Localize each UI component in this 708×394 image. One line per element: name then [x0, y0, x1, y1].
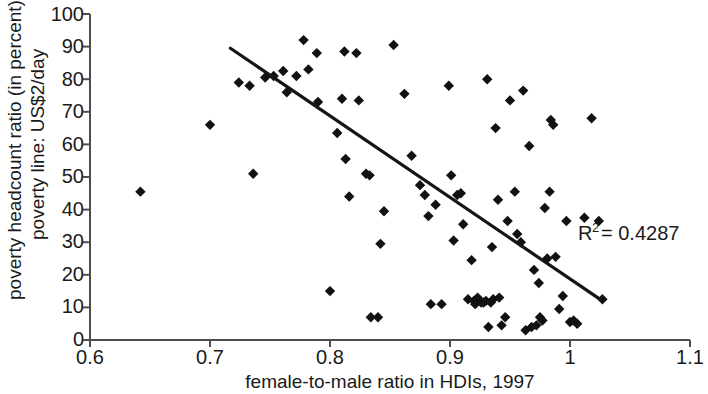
data-point-marker [351, 48, 361, 58]
data-point-marker [340, 154, 350, 164]
data-point-marker [373, 312, 383, 322]
data-point-marker [490, 123, 500, 133]
data-point-marker [554, 304, 564, 314]
data-point-marker [406, 151, 416, 161]
chart-figure: poverty headcount ratio (in percent) pov… [0, 0, 708, 394]
y-tick-label: 70 [62, 100, 84, 122]
y-tick-label: 60 [62, 133, 84, 155]
y-axis-title-line2: poverty line: US$2/day [27, 48, 48, 240]
data-point-marker [529, 265, 539, 275]
r-squared-prefix: R [578, 222, 592, 244]
data-point-marker [248, 169, 258, 179]
x-tick-label: 0.8 [316, 346, 344, 368]
data-point-marker [502, 216, 512, 226]
data-point-marker [388, 40, 398, 50]
data-point-marker [312, 48, 322, 58]
data-point-marker [426, 299, 436, 309]
data-point-marker [534, 278, 544, 288]
data-point-marker [444, 81, 454, 91]
data-point-marker [586, 113, 596, 123]
y-tick-labels: 100 90 80 70 60 50 40 30 20 10 0 [51, 3, 84, 350]
data-point-marker [483, 322, 493, 332]
regression-trend-line [230, 48, 602, 301]
data-point-marker [325, 286, 335, 296]
y-tick-label: 50 [62, 165, 84, 187]
data-point-marker [298, 35, 308, 45]
y-tick-label: 30 [62, 230, 84, 252]
y-tick-label: 20 [62, 263, 84, 285]
y-axis-title-group: poverty headcount ratio (in percent) pov… [4, 0, 48, 300]
data-point-marker [458, 219, 468, 229]
data-point-marker [482, 74, 492, 84]
data-point-marker [550, 252, 560, 262]
data-point-marker [303, 64, 313, 74]
y-axis-title-line1: poverty headcount ratio (in percent) [4, 0, 25, 300]
r-squared-annotation: R 2 = 0.4287 [578, 220, 679, 244]
r-squared-value: = 0.4287 [601, 222, 679, 244]
data-point-marker [558, 291, 568, 301]
data-point-marker [291, 71, 301, 81]
data-point-marker [278, 66, 288, 76]
data-point-marker [399, 89, 409, 99]
data-point-marker [205, 120, 215, 130]
x-tick-label: 0.6 [76, 346, 104, 368]
x-tick-label: 0.9 [436, 346, 464, 368]
data-point-marker [524, 141, 534, 151]
data-point-marker [446, 170, 456, 180]
x-tick-labels: 0.6 0.7 0.8 0.9 1 1.1 [76, 346, 704, 368]
data-point-marker [518, 85, 528, 95]
data-point-marker [339, 46, 349, 56]
data-point-marker [337, 94, 347, 104]
scatter-plot-svg: poverty headcount ratio (in percent) pov… [0, 0, 708, 394]
y-tick-label: 100 [51, 3, 84, 25]
data-point-marker [344, 191, 354, 201]
data-point-marker [448, 235, 458, 245]
r-squared-superscript: 2 [592, 220, 599, 235]
data-point-marker [540, 203, 550, 213]
data-point-marker [493, 195, 503, 205]
data-point-marker [544, 186, 554, 196]
data-point-marker [430, 200, 440, 210]
data-point-marker [561, 216, 571, 226]
y-tick-label: 90 [62, 35, 84, 57]
data-point-marker [135, 186, 145, 196]
data-point-marker [244, 81, 254, 91]
x-tick-label: 0.7 [196, 346, 224, 368]
data-point-marker [423, 211, 433, 221]
y-tick-label: 80 [62, 68, 84, 90]
data-point-marker [487, 242, 497, 252]
data-point-marker [375, 239, 385, 249]
data-markers-layer [135, 35, 607, 336]
x-axis-title: female-to-male ratio in HDIs, 1997 [245, 371, 534, 392]
data-point-marker [415, 180, 425, 190]
data-point-marker [332, 128, 342, 138]
data-point-marker [436, 299, 446, 309]
x-tick-label: 1 [564, 346, 575, 368]
trend-line-layer [230, 48, 602, 301]
data-point-marker [466, 255, 476, 265]
data-point-marker [510, 186, 520, 196]
data-point-marker [420, 190, 430, 200]
y-tick-label: 10 [62, 295, 84, 317]
y-tick-label: 40 [62, 198, 84, 220]
data-point-marker [354, 95, 364, 105]
x-tick-label: 1.1 [676, 346, 704, 368]
data-point-marker [505, 95, 515, 105]
data-point-marker [234, 77, 244, 87]
data-point-marker [379, 206, 389, 216]
